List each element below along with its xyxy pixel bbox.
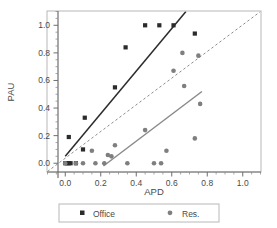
x-tick-label: 0.0 bbox=[59, 178, 71, 188]
legend-label-office: Office bbox=[93, 209, 115, 219]
data-point-res bbox=[196, 53, 201, 58]
x-tick-label: 0.6 bbox=[166, 178, 178, 188]
data-point-res bbox=[93, 161, 98, 166]
data-point-res bbox=[171, 69, 176, 74]
legend-marker-office bbox=[80, 211, 85, 216]
legend: Office Res. bbox=[59, 204, 219, 222]
x-axis-title: APD bbox=[144, 186, 164, 197]
figure-background bbox=[0, 0, 277, 228]
y-tick-label: 0.0 bbox=[38, 158, 50, 168]
data-point-res bbox=[152, 161, 157, 166]
data-point-res bbox=[180, 51, 185, 56]
data-point-res bbox=[63, 161, 68, 166]
data-point-res bbox=[159, 161, 164, 166]
data-point-office bbox=[67, 135, 71, 139]
y-tick-label: 1.0 bbox=[38, 20, 50, 30]
data-point-office bbox=[157, 23, 161, 27]
y-tick-label: 0.8 bbox=[38, 48, 50, 58]
y-tick-label: 0.4 bbox=[38, 103, 50, 113]
x-tick-label: 0.4 bbox=[130, 178, 142, 188]
data-point-res bbox=[125, 161, 130, 166]
data-point-res bbox=[74, 161, 79, 166]
data-point-res bbox=[164, 149, 169, 154]
data-point-res bbox=[106, 153, 111, 158]
scatter-plot-figure: 0.00.20.40.60.81.0 0.00.20.40.60.81.0 AP… bbox=[0, 0, 277, 228]
data-point-res bbox=[81, 161, 86, 166]
y-axis-title: PAU bbox=[5, 82, 16, 101]
x-tick-label: 1.0 bbox=[237, 178, 249, 188]
data-point-office bbox=[193, 31, 197, 35]
data-point-office bbox=[81, 147, 85, 151]
chart-canvas: 0.00.20.40.60.81.0 0.00.20.40.60.81.0 AP… bbox=[0, 0, 277, 228]
data-point-res bbox=[90, 149, 95, 154]
x-tick-label: 0.2 bbox=[95, 178, 107, 188]
y-tick-label: 0.2 bbox=[38, 131, 50, 141]
legend-label-res: Res. bbox=[182, 209, 199, 219]
data-point-office bbox=[143, 23, 147, 27]
data-point-res bbox=[198, 102, 203, 107]
data-point-office bbox=[68, 161, 72, 165]
legend-marker-res bbox=[168, 210, 173, 215]
data-point-office bbox=[171, 23, 175, 27]
data-point-res bbox=[193, 136, 198, 141]
data-point-res bbox=[113, 143, 118, 148]
data-point-res bbox=[102, 161, 107, 166]
x-tick-label: 0.8 bbox=[201, 178, 213, 188]
data-point-office bbox=[124, 45, 128, 49]
data-point-office bbox=[113, 85, 117, 89]
data-point-res bbox=[143, 128, 148, 133]
data-point-office bbox=[83, 116, 87, 120]
data-point-res bbox=[182, 84, 187, 89]
y-tick-label: 0.6 bbox=[38, 75, 50, 85]
